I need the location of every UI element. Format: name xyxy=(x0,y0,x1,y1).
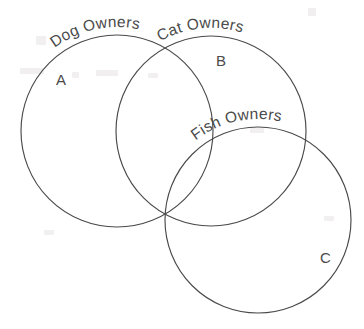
circle-fish-owners xyxy=(165,127,351,313)
curve-label-fish-owners-text: Fish Owners xyxy=(187,105,283,143)
region-label-c: C xyxy=(320,249,331,266)
circle-dog-owners xyxy=(21,35,213,227)
venn-svg-canvas: Dog Owners Cat Owners Fish Owners A B C xyxy=(0,0,364,329)
region-label-a: A xyxy=(56,71,66,88)
curve-label-fish-owners: Fish Owners xyxy=(187,105,283,143)
region-label-b: B xyxy=(216,52,226,69)
curve-label-dog-owners: Dog Owners xyxy=(47,13,142,50)
curve-label-dog-owners-text: Dog Owners xyxy=(47,13,142,50)
venn-diagram: Dog Owners Cat Owners Fish Owners A B C xyxy=(0,0,364,329)
curve-label-cat-owners: Cat Owners xyxy=(154,14,246,44)
curve-label-cat-owners-text: Cat Owners xyxy=(154,14,246,44)
